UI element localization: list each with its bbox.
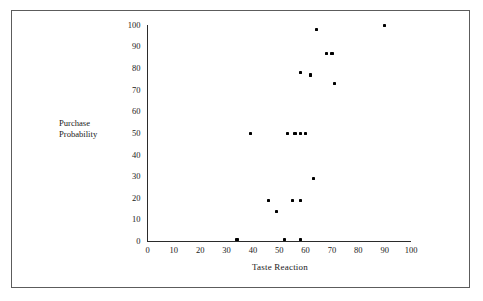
x-tick-label: 80 xyxy=(345,246,371,255)
x-tick-label: 10 xyxy=(161,246,187,255)
x-tick-label: 60 xyxy=(293,246,319,255)
data-point xyxy=(383,24,386,27)
x-tick-label: 50 xyxy=(266,246,292,255)
plot-area: Purchase Probability Taste Reaction 0102… xyxy=(0,0,483,301)
data-point xyxy=(299,238,302,241)
y-tick-label: 30 xyxy=(115,172,141,181)
data-point xyxy=(283,238,286,241)
x-tick-label: 70 xyxy=(319,246,345,255)
data-point xyxy=(299,199,302,202)
x-axis-line xyxy=(147,241,411,242)
data-point xyxy=(235,238,238,241)
y-tick-label: 60 xyxy=(115,107,141,116)
data-point xyxy=(315,28,318,31)
y-tick-label: 10 xyxy=(115,215,141,224)
x-tick-label: 40 xyxy=(240,246,266,255)
x-tick-label: 20 xyxy=(187,246,213,255)
data-point xyxy=(293,132,296,135)
data-point xyxy=(275,210,278,213)
y-tick-label: 100 xyxy=(115,21,141,30)
y-tick-label: 20 xyxy=(115,194,141,203)
data-point xyxy=(299,132,302,135)
data-point xyxy=(330,52,333,55)
y-tick-label: 80 xyxy=(115,64,141,73)
y-tick-label: 70 xyxy=(115,86,141,95)
y-tick-label: 90 xyxy=(115,42,141,51)
data-point xyxy=(325,52,328,55)
data-point xyxy=(333,82,336,85)
data-point xyxy=(267,199,270,202)
data-point xyxy=(312,177,315,180)
data-point xyxy=(286,132,289,135)
data-point xyxy=(291,199,294,202)
x-tick-label: 100 xyxy=(398,246,424,255)
scatter-plot-figure: Purchase Probability Taste Reaction 0102… xyxy=(0,0,483,301)
x-tick-label: 90 xyxy=(372,246,398,255)
y-tick-label: 50 xyxy=(115,129,141,138)
data-point xyxy=(299,71,302,74)
data-point xyxy=(309,73,312,76)
x-tick-label: 30 xyxy=(214,246,240,255)
x-axis-title: Taste Reaction xyxy=(205,262,355,272)
y-tick-label: 40 xyxy=(115,151,141,160)
data-point xyxy=(304,132,307,135)
y-axis-title-line-1: Purchase xyxy=(59,118,133,129)
x-tick-label: 0 xyxy=(135,246,161,255)
y-axis-line xyxy=(147,25,148,242)
data-point xyxy=(249,132,252,135)
